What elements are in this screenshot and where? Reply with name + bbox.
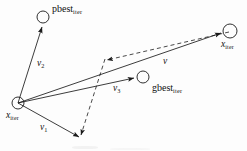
velocity-v1-label: v1 [40, 123, 48, 133]
velocity-resultant-label: v [163, 57, 167, 67]
velocity-v1-label-subscript: 1 [44, 126, 47, 133]
next-position-label: xiter [221, 40, 234, 50]
position-nodes [12, 11, 237, 109]
velocity-v3-label-subscript: 3 [117, 87, 120, 94]
gbest-label: gbestiter [152, 83, 182, 93]
next-position-label-subscript: iter [225, 44, 234, 50]
gbest-node [137, 71, 149, 83]
vector-v1-inertia [18, 103, 79, 137]
velocity-resultant-label-base: v [163, 56, 167, 66]
pbest-node [37, 11, 49, 23]
gbest-label-base: gbest [152, 82, 173, 93]
scan-artifact [72, 146, 98, 149]
pso-vector-diagram: pbestiter gbestiter xiter xiter v1 v2 v3… [0, 0, 247, 151]
next-position-node [223, 24, 237, 38]
pbest-label-subscript: iter [73, 8, 82, 15]
gbest-label-subscript: iter [173, 87, 182, 94]
pbest-label-base: pbest [52, 3, 73, 14]
vector-arrows [18, 27, 221, 137]
diagram-canvas [0, 0, 247, 151]
dashed-line-to-inertia-tip [81, 59, 105, 135]
velocity-v2-label: v2 [37, 59, 45, 69]
current-position-label-subscript: iter [10, 115, 19, 121]
velocity-v3-label: v3 [113, 84, 121, 94]
velocity-v2-label-subscript: 2 [41, 62, 44, 69]
current-position-label: xiter [6, 111, 19, 121]
scan-artifact [110, 148, 150, 150]
pbest-label: pbestiter [52, 4, 82, 14]
